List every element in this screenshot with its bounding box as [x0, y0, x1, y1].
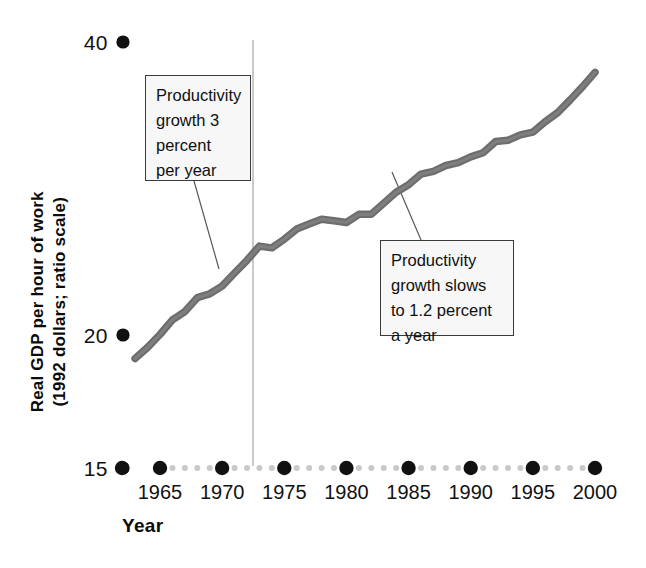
- x-axis-minor-dot-1983: [381, 465, 387, 471]
- annotation-box-growth-3-percent: Productivity growth 3 percent per year: [145, 75, 251, 181]
- x-axis-minor-dot-1994: [517, 465, 523, 471]
- x-axis-major-dot-1995: [526, 461, 540, 475]
- x-axis-minor-dot-1973: [256, 465, 262, 471]
- x-axis-minor-dot-1997: [555, 465, 561, 471]
- x-axis-major-dot-2000: [588, 461, 602, 475]
- x-axis-major-dot-1975: [277, 461, 291, 475]
- x-axis-minor-dot-1974: [269, 465, 275, 471]
- y-tick-dot-20: [116, 328, 129, 341]
- y-axis-title-line-2: (1992 dollars; ratio scale): [49, 157, 71, 447]
- x-axis-minor-dot-1971: [232, 465, 238, 471]
- x-axis-minor-dot-1999: [580, 465, 586, 471]
- annotation-2-line-2: growth slows: [391, 273, 504, 298]
- annotation-1-line-4: per year: [156, 158, 241, 183]
- x-axis-minor-dot-1978: [319, 465, 325, 471]
- x-axis-minor-dot-1966: [169, 465, 175, 471]
- x-axis-major-dot-1980: [339, 461, 353, 475]
- y-axis-tick-dots: [116, 35, 129, 474]
- annotation-2-line-4: a year: [391, 323, 504, 348]
- x-axis-minor-dot-1993: [505, 465, 511, 471]
- y-tick-label-40: 40: [62, 31, 108, 55]
- x-axis-minor-dot-1984: [393, 465, 399, 471]
- annotation-2-line-3: to 1.2 percent: [391, 298, 504, 323]
- x-axis-major-dot-1990: [464, 461, 478, 475]
- annotation-1-line-1: Productivity: [156, 83, 241, 108]
- annotation-1-line-3: percent: [156, 133, 241, 158]
- annotation-2-line-1: Productivity: [391, 248, 504, 273]
- x-axis-minor-dots: [169, 465, 585, 471]
- x-axis-minor-dot-1989: [455, 465, 461, 471]
- x-axis-minor-dot-1968: [194, 465, 200, 471]
- x-axis-minor-dot-1996: [542, 465, 548, 471]
- x-tick-label-2000: 2000: [555, 481, 635, 504]
- x-axis-minor-dot-1976: [294, 465, 300, 471]
- x-axis-minor-dot-1988: [443, 465, 449, 471]
- y-tick-dot-15: [116, 461, 129, 474]
- annotation-box-growth-slows: Productivity growth slows to 1.2 percent…: [380, 240, 514, 336]
- x-axis-minor-dot-1987: [430, 465, 436, 471]
- y-axis-title: Real GDP per hour of work (1992 dollars;…: [27, 157, 71, 447]
- x-axis-minor-dot-1977: [306, 465, 312, 471]
- x-axis-minor-dot-1981: [356, 465, 362, 471]
- x-axis-minor-dot-1998: [567, 465, 573, 471]
- x-axis-major-dot-1970: [215, 461, 229, 475]
- x-axis-minor-dot-1979: [331, 465, 337, 471]
- x-axis-minor-dot-1992: [493, 465, 499, 471]
- productivity-chart-figure: 40 20 15 1965197019751980198519901995200…: [0, 0, 646, 568]
- annotation-1-line-2: growth 3: [156, 108, 241, 133]
- y-tick-label-15: 15: [62, 457, 108, 481]
- x-axis-minor-dot-1991: [480, 465, 486, 471]
- x-axis-minor-dot-1986: [418, 465, 424, 471]
- x-axis-major-dot-1965: [153, 461, 167, 475]
- y-axis-title-line-1: Real GDP per hour of work: [27, 157, 49, 447]
- leader-line-annotation-1: [194, 181, 219, 269]
- x-axis-minor-dot-1967: [182, 465, 188, 471]
- x-axis-minor-dot-1969: [207, 465, 213, 471]
- x-axis-minor-dot-1982: [368, 465, 374, 471]
- x-axis-title: Year: [122, 515, 163, 537]
- x-axis-minor-dot-1972: [244, 465, 250, 471]
- x-axis-major-dot-1985: [401, 461, 415, 475]
- y-tick-dot-40: [116, 35, 129, 48]
